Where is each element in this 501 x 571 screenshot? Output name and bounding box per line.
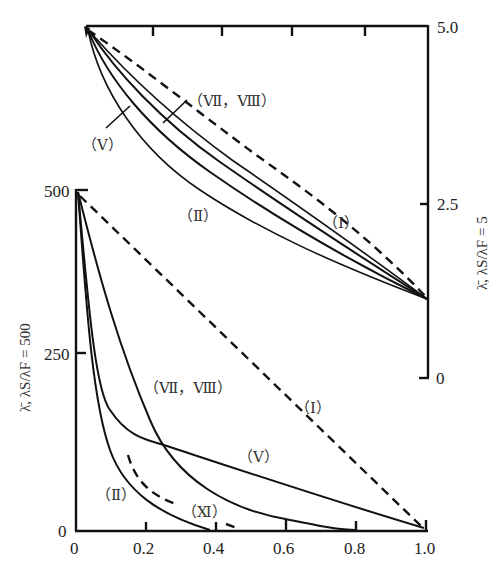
lower-plot: （Ⅶ，Ⅷ） （Ⅰ） （Ⅴ） （Ⅱ） （Ⅺ） 500 250 0 0 0.2 0.… [17, 182, 435, 558]
upper-label-II: （Ⅱ） [178, 208, 218, 224]
x-label-0-4: 0.4 [203, 539, 225, 558]
upper-label-V: （Ⅴ） [82, 137, 123, 153]
upper-label-VII-VIII: （Ⅶ，Ⅷ） [188, 93, 276, 109]
upper-y-label-2-5: 2.5 [437, 195, 458, 214]
lower-label-XI: （Ⅺ） [182, 504, 227, 520]
upper-curve-VII [90, 32, 427, 299]
x-label-0-8: 0.8 [344, 539, 365, 558]
upper-curve-VIII [92, 34, 427, 299]
upper-y-label-0: 0 [436, 369, 445, 388]
lower-label-VII-VIII: （Ⅶ，Ⅷ） [144, 380, 232, 396]
upper-curve-II [88, 30, 427, 299]
lower-curve-XI-tail [226, 524, 240, 529]
upper-curve-V [88, 30, 427, 299]
upper-leader-VII-VIII [163, 100, 187, 123]
lower-curve-I [80, 196, 423, 528]
x-label-0: 0 [70, 539, 79, 558]
lower-y-label-0: 0 [58, 522, 67, 541]
upper-curve-I [88, 30, 427, 298]
chart: （Ⅴ） （Ⅶ，Ⅷ） （Ⅱ） （Ⅰ） 5.0 2.5 0 λ̄, λS/λF = … [0, 0, 501, 571]
lower-curve-VII-VIII [78, 192, 356, 530]
x-label-0-6: 0.6 [273, 539, 294, 558]
lower-label-V: （Ⅴ） [238, 449, 279, 465]
lower-y-label-250: 250 [44, 345, 70, 364]
lower-label-II: （Ⅱ） [96, 487, 136, 503]
lower-y-title: λ̄, λS/λF = 500 [17, 323, 33, 412]
upper-y-label-5: 5.0 [437, 18, 458, 37]
lower-y-label-500: 500 [44, 182, 70, 201]
upper-label-I: （Ⅰ） [323, 215, 359, 231]
x-label-1-0: 1.0 [414, 539, 435, 558]
x-label-0-2: 0.2 [133, 539, 154, 558]
lower-label-I: （Ⅰ） [295, 400, 331, 416]
lower-curve-II [78, 192, 210, 530]
upper-plot: （Ⅴ） （Ⅶ，Ⅷ） （Ⅱ） （Ⅰ） 5.0 2.5 0 λ̄, λS/λF = … [82, 18, 490, 388]
upper-y-title: λ̄, λS/λF = 5 [474, 216, 490, 290]
